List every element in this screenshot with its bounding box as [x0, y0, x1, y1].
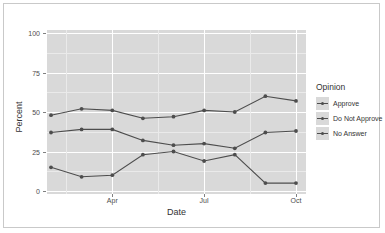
series-point	[233, 146, 237, 150]
legend-item-no-answer[interactable]: No Answer	[316, 127, 385, 140]
y-tick-label: 100	[28, 30, 40, 37]
y-tick-mark	[43, 152, 46, 153]
y-tick-mark	[43, 191, 46, 192]
series-point	[294, 129, 298, 133]
y-tick-label: 50	[32, 109, 40, 116]
series-point	[264, 181, 268, 185]
series-point	[110, 109, 114, 113]
y-tick-label: 75	[32, 69, 40, 76]
y-tick-label: 25	[32, 148, 40, 155]
series-point	[202, 109, 206, 113]
y-tick-mark	[43, 33, 46, 34]
legend-item-label: No Answer	[333, 130, 367, 137]
series-point	[80, 175, 84, 179]
y-tick-mark	[43, 73, 46, 74]
data-series-layer	[47, 30, 306, 194]
x-tick-mark	[296, 194, 297, 197]
series-point	[49, 165, 53, 169]
legend-key-icon	[316, 127, 329, 140]
series-point	[233, 110, 237, 114]
legend-item-label: Do Not Approve	[333, 115, 382, 122]
legend: Opinion ApproveDo Not ApproveNo Answer	[316, 82, 385, 142]
x-tick-mark	[204, 194, 205, 197]
series-line	[51, 152, 296, 184]
series-point	[264, 131, 268, 135]
x-tick-label: Jul	[200, 197, 209, 204]
series-point	[110, 173, 114, 177]
series-point	[141, 116, 145, 120]
series-point	[294, 99, 298, 103]
legend-title: Opinion	[316, 82, 385, 92]
legend-items: ApproveDo Not ApproveNo Answer	[316, 97, 385, 140]
x-tick-label: Apr	[107, 197, 118, 204]
legend-key-icon	[316, 112, 329, 125]
chart-frame: Percent 0255075100 AprJulOct Date Opinio…	[3, 3, 380, 228]
series-point	[294, 181, 298, 185]
y-tick-label: 0	[36, 188, 40, 195]
series-point	[172, 143, 176, 147]
series-point	[80, 128, 84, 132]
series-point	[141, 153, 145, 157]
series-point	[233, 153, 237, 157]
x-tick-mark	[112, 194, 113, 197]
series-point	[141, 139, 145, 143]
plot-panel	[47, 30, 306, 194]
legend-item-label: Approve	[333, 100, 359, 107]
series-point	[49, 113, 53, 117]
series-point	[49, 131, 53, 135]
series-point	[172, 150, 176, 154]
x-axis-label: Date	[47, 207, 306, 217]
series-point	[202, 159, 206, 163]
legend-key-icon	[316, 97, 329, 110]
series-point	[264, 94, 268, 98]
legend-item-do-not-approve[interactable]: Do Not Approve	[316, 112, 385, 125]
series-point	[110, 128, 114, 132]
y-tick-mark	[43, 112, 46, 113]
legend-item-approve[interactable]: Approve	[316, 97, 385, 110]
series-point	[80, 107, 84, 111]
x-tick-label: Oct	[291, 197, 302, 204]
series-point	[172, 115, 176, 119]
series-point	[202, 142, 206, 146]
y-axis-label: Percent	[14, 57, 24, 177]
